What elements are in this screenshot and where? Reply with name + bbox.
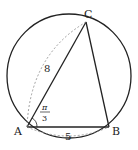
angle-denominator: 3	[42, 114, 47, 123]
side-length-ac: 8	[44, 63, 50, 74]
side-length-ab: 5	[65, 131, 71, 142]
circumcircle	[7, 14, 131, 138]
geometry-figure: C A B 8 5 π 3	[0, 0, 138, 150]
vertex-label-a: A	[13, 125, 23, 138]
vertex-label-c: C	[84, 8, 92, 21]
side-ac	[27, 22, 86, 127]
angle-numerator: π	[41, 103, 48, 112]
vertex-label-b: B	[112, 125, 120, 138]
side-cb	[86, 22, 109, 127]
